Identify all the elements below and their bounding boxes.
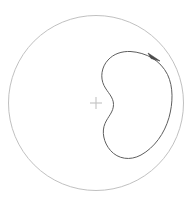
figure-background [0,0,196,209]
bean-curve-figure [0,0,196,209]
diagram-canvas [0,0,196,209]
